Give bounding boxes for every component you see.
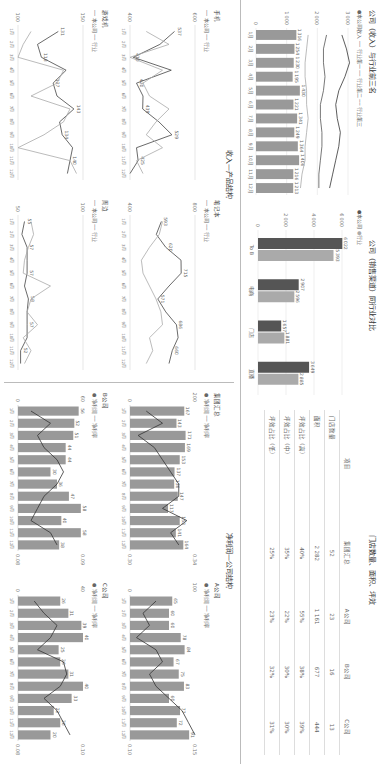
bar [130, 609, 169, 618]
svg-text:4月: 4月 [121, 257, 126, 264]
svg-text:134: 134 [64, 130, 69, 139]
svg-text:1月: 1月 [121, 218, 126, 225]
svg-text:2 596: 2 596 [295, 291, 300, 303]
svg-text:57: 57 [29, 270, 34, 276]
svg-text:周边: 周边 [101, 200, 109, 212]
svg-text:58: 58 [82, 530, 87, 536]
svg-text:51: 51 [74, 433, 79, 439]
svg-text:143: 143 [76, 105, 81, 114]
svg-text:118: 118 [43, 53, 48, 62]
svg-text:60: 60 [80, 396, 86, 402]
bar [130, 443, 185, 452]
svg-text:笔记本: 笔记本 [213, 200, 221, 218]
svg-text:12月: 12月 [121, 730, 126, 739]
svg-text:58: 58 [82, 506, 87, 512]
bar [18, 480, 57, 489]
svg-text:0.10: 0.10 [127, 744, 133, 755]
svg-text:1 316: 1 316 [297, 29, 302, 41]
svg-text:1 221: 1 221 [294, 98, 299, 110]
bar [256, 183, 293, 193]
table-row: 坪效占比（高）40%55%38%39% [295, 410, 310, 755]
svg-text:143: 143 [177, 419, 182, 428]
svg-text:47: 47 [70, 493, 75, 499]
revenue-legend: ●本公司收入 ── 行业第一 ── 行业第二 ── 行业第三 [357, 10, 364, 127]
svg-text:3月: 3月 [9, 244, 14, 251]
svg-text:10月: 10月 [121, 143, 126, 152]
svg-text:1月: 1月 [9, 598, 14, 605]
bar [18, 682, 83, 691]
svg-text:164: 164 [184, 541, 189, 550]
bar [130, 682, 184, 691]
svg-text:153: 153 [181, 455, 186, 464]
channel-legend: ●本公司 ●行业 [357, 210, 364, 245]
svg-text:3 000: 3 000 [345, 11, 351, 25]
svg-text:529: 529 [174, 130, 179, 139]
profit-charts: 集团汇总● 净利润 ── 净利率02000.300.341671月1432月17… [0, 383, 225, 764]
svg-text:3 649: 3 649 [310, 361, 315, 373]
bar [18, 597, 60, 606]
bar [130, 706, 180, 715]
svg-text:To B: To B [249, 244, 255, 256]
svg-text:6月: 6月 [9, 283, 14, 290]
bar [130, 455, 180, 464]
svg-text:8月: 8月 [9, 119, 14, 126]
channel-title: 公司（销售渠道）同行业对比 [368, 240, 378, 331]
bar [18, 657, 60, 666]
svg-text:1 195: 1 195 [294, 71, 299, 83]
svg-text:2 907: 2 907 [300, 279, 305, 291]
svg-text:9月: 9月 [121, 132, 126, 139]
stores-table: 项目集团汇总A公司B公司C公司门店数量52231613面积2 2821 1616… [264, 410, 354, 755]
svg-text:4月: 4月 [121, 634, 126, 641]
bar [18, 528, 81, 537]
svg-text:6 000: 6 000 [339, 213, 345, 227]
svg-text:6 022: 6 022 [343, 237, 348, 249]
stores-title: 门店数量、面积、坪效 [368, 535, 378, 605]
svg-text:5月: 5月 [121, 80, 126, 87]
svg-text:0: 0 [15, 589, 21, 592]
svg-text:100: 100 [15, 12, 21, 22]
svg-text:60: 60 [170, 623, 175, 629]
bar [18, 467, 51, 476]
svg-text:3月: 3月 [9, 432, 14, 439]
bar [258, 321, 281, 332]
svg-text:0.10: 0.10 [80, 744, 86, 755]
svg-text:12月: 12月 [121, 169, 126, 178]
svg-text:C公司: C公司 [102, 583, 108, 599]
svg-text:11月: 11月 [9, 528, 14, 537]
bar [256, 114, 297, 124]
svg-text:A公司: A公司 [214, 583, 220, 599]
svg-text:3月: 3月 [247, 59, 253, 66]
svg-text:44: 44 [67, 445, 72, 451]
bar [130, 419, 176, 428]
svg-text:84: 84 [186, 647, 191, 653]
bar [256, 155, 299, 165]
svg-text:1 230: 1 230 [295, 57, 300, 69]
svg-text:2 885: 2 885 [299, 373, 304, 385]
svg-text:11月: 11月 [121, 528, 126, 537]
svg-text:10月: 10月 [9, 143, 14, 152]
svg-text:2月: 2月 [247, 45, 253, 52]
bar [258, 279, 299, 290]
svg-text:50: 50 [15, 206, 21, 212]
svg-text:9月: 9月 [9, 322, 14, 329]
line-series [23, 221, 50, 363]
svg-text:0: 0 [127, 399, 133, 402]
svg-text:1 249: 1 249 [295, 126, 300, 138]
bar [18, 407, 79, 416]
svg-text:65: 65 [173, 598, 178, 604]
svg-text:9月: 9月 [121, 695, 126, 702]
svg-text:6月: 6月 [9, 469, 14, 476]
svg-text:0.15: 0.15 [192, 744, 198, 755]
svg-text:2月: 2月 [9, 41, 14, 48]
bar [130, 694, 169, 703]
svg-text:11月: 11月 [247, 169, 253, 179]
bar [258, 250, 334, 261]
svg-text:7月: 7月 [121, 296, 126, 303]
bar [18, 492, 69, 501]
svg-text:75: 75 [180, 671, 185, 677]
svg-text:715: 715 [183, 269, 188, 278]
svg-text:4月: 4月 [121, 444, 126, 451]
svg-text:10月: 10月 [9, 333, 14, 342]
svg-text:91: 91 [190, 732, 195, 738]
svg-text:100: 100 [192, 582, 198, 592]
